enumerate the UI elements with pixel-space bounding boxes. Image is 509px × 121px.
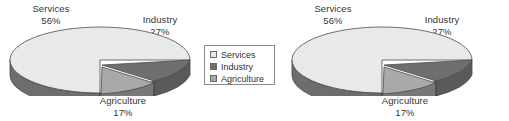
pie-graphic-right: [284, 24, 480, 96]
chart-legend: Services Industry Agriculture: [204, 45, 275, 85]
label-services-right: Services 56%: [304, 3, 362, 26]
label-services-title-left: Services: [22, 3, 80, 15]
legend-swatch-industry-icon: [210, 63, 217, 70]
pie-chart-right: Services 56% Industry 27% Agriculture 17…: [282, 0, 482, 121]
legend-item-services[interactable]: Services: [210, 49, 274, 60]
label-agriculture-left: Agriculture 17%: [90, 95, 156, 118]
label-agriculture-title-left: Agriculture: [90, 95, 156, 107]
legend-item-agriculture[interactable]: Agriculture: [210, 73, 274, 84]
legend-label-services: Services: [221, 50, 256, 60]
legend-item-industry[interactable]: Industry: [210, 61, 274, 72]
label-services-left: Services 56%: [22, 3, 80, 26]
label-agriculture-title-right: Agriculture: [372, 95, 438, 107]
pie-chart-figure: Services 56% Industry 27% Agriculture 17…: [0, 0, 509, 121]
pie-chart-left: Services 56% Industry 27% Agriculture 17…: [0, 0, 200, 121]
legend-swatch-services-icon: [210, 51, 217, 58]
label-services-title-right: Services: [304, 3, 362, 15]
legend-label-agriculture: Agriculture: [221, 74, 264, 84]
label-agriculture-value-right: 17%: [372, 107, 438, 119]
pie-graphic-left: [2, 24, 198, 96]
legend-swatch-agriculture-icon: [210, 75, 217, 82]
legend-label-industry: Industry: [221, 62, 253, 72]
label-agriculture-value-left: 17%: [90, 107, 156, 119]
label-agriculture-right: Agriculture 17%: [372, 95, 438, 118]
